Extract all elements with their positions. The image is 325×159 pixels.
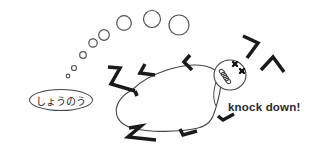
caption-knock-down: knock down! bbox=[228, 101, 300, 113]
knocked-down-bug-drawing bbox=[0, 0, 325, 159]
illustration-canvas: しょうのう knock down! bbox=[0, 0, 325, 159]
thought-label-bubble: しょうのう bbox=[29, 89, 93, 111]
thought-bubble-circle bbox=[89, 39, 97, 47]
bug-legs bbox=[108, 55, 234, 140]
thought-bubble-circle bbox=[169, 15, 189, 35]
thought-bubble-circle bbox=[144, 11, 161, 28]
thought-bubbles bbox=[66, 11, 189, 78]
antennae bbox=[243, 36, 284, 72]
thought-bubble-circle bbox=[117, 16, 132, 31]
thought-label-text: しょうのう bbox=[36, 93, 86, 108]
thought-bubble-circle bbox=[72, 66, 77, 71]
thought-bubble-circle bbox=[66, 74, 70, 78]
bug-body bbox=[116, 65, 221, 131]
thought-bubble-circle bbox=[99, 30, 110, 41]
thought-bubble-circle bbox=[80, 52, 87, 59]
